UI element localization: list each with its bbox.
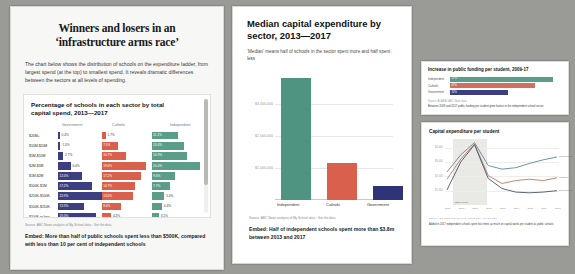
bar-segment: 3.1% <box>152 213 159 218</box>
capex-line-chart: BER period $1,000$2,000$3,000$4,000Indep… <box>429 139 561 215</box>
bar-segment: 6.4% <box>58 162 71 170</box>
bar-value-label: 11.1% <box>153 133 162 137</box>
bar-segment: 12.0% <box>58 172 82 180</box>
bar-value-label: 13.3% <box>59 204 68 208</box>
bar-track: 13.4% <box>152 141 205 151</box>
bar-segment: 57% <box>450 77 553 82</box>
bar-track: 3.1% <box>152 212 205 218</box>
row-label: $100K-$250K <box>29 205 58 209</box>
funding-bar-rows: Independent57%Catholic47%Government32% <box>428 76 562 96</box>
bar-track: 10.7% <box>102 151 152 161</box>
bar-segment: 20.4% <box>152 162 201 170</box>
funding-row-label: Government <box>428 90 450 94</box>
bar-value-label: 22.9% <box>59 194 68 198</box>
bar-value-label: 17.2% <box>103 174 112 178</box>
median-expenditure-panel: Median capital expenditure by sector, 20… <box>232 6 412 264</box>
bar-segment: 1.7% <box>102 132 106 140</box>
table-row: $10M-$20M1.3%7.3%13.4% <box>29 141 204 151</box>
bar-track: 17.2% <box>102 171 152 181</box>
list-item: Independent57% <box>428 76 562 83</box>
table-row: $500K-$1M17.2%14.7%7.7% <box>29 181 204 191</box>
bar-value-label: 14.7% <box>103 184 112 188</box>
funding-source-line[interactable]: Source: ACARA / ABC News data <box>428 100 562 103</box>
x-axis-tick-label: 2015 <box>528 207 534 210</box>
bar-value-label: 17.2% <box>59 184 68 188</box>
bar-track: 57% <box>450 76 562 83</box>
bar-track: 32% <box>450 89 562 96</box>
funding-note: Between 2009 and 2017 public funding per… <box>428 105 562 109</box>
bar-track: 2.7% <box>58 151 102 161</box>
bar-value-label: 19.6% <box>103 164 112 168</box>
bar-value-label: 7.7% <box>153 184 160 188</box>
x-axis-labels: 200920102011201220132014201520162017 <box>445 207 559 215</box>
bar-segment: 7.7% <box>152 182 170 190</box>
bar-track: 5.4% <box>152 191 205 201</box>
bar-value-label: 4.2% <box>113 214 120 218</box>
bar-independent <box>281 78 311 200</box>
bar-value-label: 0.4% <box>62 133 69 137</box>
bar-segment: 9.6% <box>152 172 175 180</box>
article-panel: Winners and losers in an ‘infrastructure… <box>10 6 224 270</box>
x-axis-tick-label: 2017 <box>555 207 561 210</box>
bar-track: 7.7% <box>152 181 205 191</box>
bar-track: 14.9% <box>152 151 205 161</box>
bar-value-label: 8.4% <box>103 204 110 208</box>
x-label-catholic: Catholic <box>326 202 340 207</box>
y-axis-tick-label: $4,000 <box>429 146 443 149</box>
median-chart-subtitle: ‘Median’ means half of schools in the se… <box>247 48 397 62</box>
bar-track: 0.4% <box>58 131 102 141</box>
capex-source-line[interactable]: Source: ABC News analysis of My School d… <box>429 217 561 220</box>
column-headers: Government Catholic Independent <box>24 123 210 131</box>
bar-track: 12.0% <box>58 171 102 181</box>
row-label: $1M-$2M <box>29 174 58 178</box>
bar-value-label: 1.3% <box>62 143 69 147</box>
bar-track: 14.7% <box>102 181 152 191</box>
x-axis-tick-label: 2014 <box>514 207 520 210</box>
chart-title: Percentage of schools in each sector by … <box>24 95 189 118</box>
bar-track: 13.6% <box>102 191 152 201</box>
bar-value-label: 13.4% <box>153 143 162 147</box>
x-axis-tick-label: 2011 <box>473 207 478 210</box>
browser-page: Winners and losers in an ‘infrastructure… <box>0 0 575 274</box>
funding-row-label: Independent <box>428 77 450 81</box>
series-label: Government <box>559 189 573 192</box>
bar-value-label: 5.4% <box>166 194 173 198</box>
bar-value-label: 20.4% <box>153 164 162 168</box>
bar-segment: 14.7% <box>102 182 136 190</box>
bar-catholic <box>327 163 357 200</box>
bar-value-label: 57% <box>452 77 457 80</box>
list-item: Catholic47% <box>428 83 562 90</box>
row-label: $20M+ <box>29 134 58 138</box>
bar-segment: 13.6% <box>102 192 133 200</box>
bar-track: 13.3% <box>58 201 102 211</box>
x-axis-tick-label: 2013 <box>500 207 506 210</box>
table-row: $100K-$250K13.3%8.4%4.4% <box>29 201 204 211</box>
x-label-independent: Independent <box>277 202 299 207</box>
table-row: $20M+0.4%1.7%11.1% <box>29 131 204 141</box>
row-label: $10M-$20M <box>29 144 58 148</box>
x-axis-tick-label: 2012 <box>486 207 492 210</box>
bar-segment: 2.7% <box>58 152 63 160</box>
bar-government <box>373 186 403 200</box>
mid-source-line[interactable]: Source: ABC News analysis of My School d… <box>249 216 395 220</box>
y-axis-tick-label: $1,000,000 <box>247 166 273 170</box>
distribution-chart-card: Percentage of schools in each sector by … <box>23 94 211 218</box>
bar-value-label: 32% <box>452 91 457 94</box>
bar-value-label: 19.3% <box>59 214 68 218</box>
distribution-rows: $20M+0.4%1.7%11.1%$10M-$20M1.3%7.3%13.4%… <box>24 131 210 218</box>
chart-scrollbar-thumb[interactable] <box>204 99 208 185</box>
y-axis-tick-label: $3,000 <box>429 160 443 163</box>
bar-value-label: 12.0% <box>59 174 68 178</box>
bar-segment: 4.4% <box>152 203 163 211</box>
bar-value-label: 13.6% <box>103 194 112 198</box>
left-source-line[interactable]: Source: ABC News analysis of My School d… <box>25 223 209 227</box>
bar-segment: 11.1% <box>152 132 179 140</box>
bar-segment: 7.3% <box>102 142 119 150</box>
bar-track: 8.4% <box>102 201 152 211</box>
headline-line-2: ‘infrastructure arms race’ <box>23 35 211 49</box>
bar-value-label: 47% <box>452 84 457 87</box>
bar-track: 1.7% <box>102 131 152 141</box>
bar-value-label: 2.7% <box>65 153 72 157</box>
bar-value-label: 1.7% <box>107 133 114 137</box>
line-series-group <box>445 139 561 205</box>
